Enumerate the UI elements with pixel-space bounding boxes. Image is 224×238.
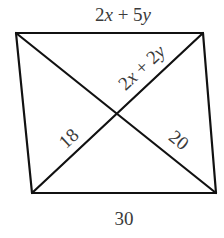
top-side-label: 2x + 5y — [95, 4, 152, 25]
left-side — [16, 33, 32, 193]
parallelogram-diagram: 2x + 5y 2x + 2y 18 20 30 — [0, 0, 224, 238]
upper-right-diagonal-label: 2x + 2y — [114, 40, 170, 94]
diagonal-tr-bl — [32, 33, 203, 193]
right-side — [203, 33, 216, 193]
lower-right-diagonal-label: 20 — [165, 126, 193, 154]
bottom-side-label: 30 — [115, 208, 134, 229]
